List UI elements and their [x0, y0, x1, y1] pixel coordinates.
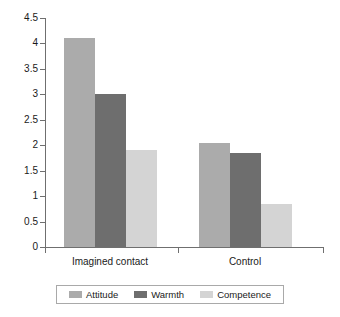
bar-attitude-imagined-contact [64, 38, 95, 247]
x-category-label: Imagined contact [50, 256, 170, 268]
bar-warmth-control [230, 153, 261, 247]
y-tick-label: 4.5 [10, 13, 38, 23]
bar-competence-control [261, 204, 292, 247]
y-tick-mark [40, 171, 45, 172]
legend-swatch-icon [69, 291, 82, 298]
y-tick-label: 0.5 [10, 217, 38, 227]
x-tick-mark [323, 248, 324, 253]
legend-swatch-icon [200, 291, 213, 298]
legend-label: Warmth [151, 290, 184, 300]
y-tick-mark [40, 196, 45, 197]
plot-area [46, 18, 323, 247]
legend-swatch-icon [134, 291, 147, 298]
chart-legend: AttitudeWarmthCompetence [56, 285, 284, 304]
y-tick-label: 0 [10, 242, 38, 252]
x-tick-mark [178, 248, 179, 253]
x-tick-mark [45, 248, 46, 253]
y-tick-label: 2 [10, 140, 38, 150]
y-tick-mark [40, 120, 45, 121]
y-tick-mark [40, 94, 45, 95]
y-tick-mark [40, 43, 45, 44]
y-tick-label: 1.5 [10, 166, 38, 176]
y-tick-label: 3.5 [10, 64, 38, 74]
y-tick-mark [40, 18, 45, 19]
legend-item-warmth[interactable]: Warmth [134, 290, 184, 300]
bar-chart: 4.543.532.521.510.50 Imagined contactCon… [0, 0, 340, 317]
bar-competence-imagined-contact [126, 150, 157, 247]
y-tick-label: 4 [10, 38, 38, 48]
legend-item-competence[interactable]: Competence [200, 290, 271, 300]
y-tick-mark [40, 69, 45, 70]
y-tick-label: 1 [10, 191, 38, 201]
bar-attitude-control [199, 143, 230, 247]
y-tick-label: 2.5 [10, 115, 38, 125]
x-category-label: Control [185, 256, 305, 268]
y-tick-label: 3 [10, 89, 38, 99]
y-tick-mark [40, 222, 45, 223]
y-tick-mark [40, 145, 45, 146]
legend-item-attitude[interactable]: Attitude [69, 290, 118, 300]
x-axis-line [45, 247, 324, 248]
legend-label: Attitude [86, 290, 118, 300]
bar-warmth-imagined-contact [95, 94, 126, 247]
legend-label: Competence [217, 290, 271, 300]
